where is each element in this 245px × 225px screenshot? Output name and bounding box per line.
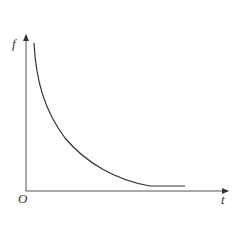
x-axis-label: t: [221, 192, 225, 207]
decay-curve-diagram: f t O: [0, 0, 245, 225]
decay-curve: [34, 43, 185, 186]
y-axis-label: f: [12, 36, 18, 51]
origin-label: O: [18, 191, 28, 206]
